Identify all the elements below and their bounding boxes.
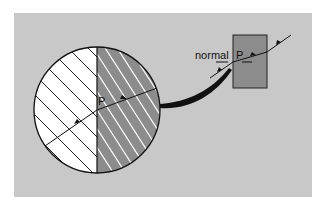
point-label-circle: P [98,96,105,107]
magnify-connector [160,68,232,108]
normal-label: normal [195,50,229,61]
inset-exit-ray [267,35,291,52]
diagram-graphic [0,0,328,207]
left-medium [30,40,97,180]
point-label-inset: P [236,50,243,61]
